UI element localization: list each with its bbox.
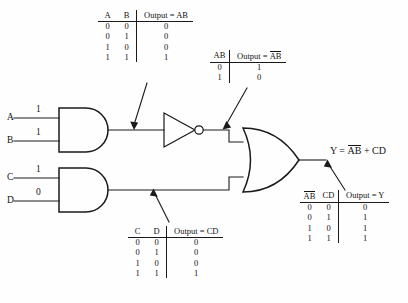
table-row: 0 1 0 (98, 32, 193, 42)
arrowhead-y (324, 160, 332, 168)
table-row: 1 0 0 (128, 258, 223, 268)
cell-b: 1 (117, 52, 137, 62)
wire-notab-to-or (204, 130, 244, 142)
th-ab-output: Output = AB (137, 10, 194, 21)
cell-out: 1 (137, 52, 194, 62)
and-gate-ab-body (59, 108, 108, 152)
table-row: 1 0 (210, 73, 286, 83)
cell-out: 0 (137, 42, 194, 52)
th-y-cd: CD (319, 190, 339, 202)
cell-out: 1 (339, 223, 390, 233)
table-row: 1 0 1 (300, 223, 389, 233)
input-value-c: 1 (36, 164, 41, 174)
th-notab-output-overline: AB (270, 51, 282, 61)
cell-out: 1 (167, 268, 224, 278)
cell-c: 0 (128, 237, 147, 248)
leader-y-table (329, 165, 345, 190)
th-ab-a: A (98, 10, 117, 21)
cell-a: 0 (98, 21, 117, 32)
table-row: 0 0 0 (300, 202, 389, 213)
table-row: 0 0 0 (98, 21, 193, 32)
input-value-b: 1 (36, 127, 41, 137)
table-row: 1 1 1 (300, 233, 389, 243)
table-row: 0 1 0 (128, 248, 223, 258)
arrowhead-notab (223, 121, 232, 129)
input-label-d: D (7, 195, 14, 205)
input-label-b: B (7, 135, 13, 145)
cell-b: 0 (117, 42, 137, 52)
cell-out: 1 (339, 213, 390, 223)
cell-a: 0 (98, 32, 117, 42)
table-row: 0 1 (210, 62, 286, 73)
input-label-c: C (7, 172, 13, 182)
th-y-notab: AB (300, 190, 319, 202)
table-row: 1 1 1 (98, 52, 193, 62)
table-row: 1 1 1 (128, 268, 223, 278)
input-label-a: A (7, 112, 14, 122)
cell-cd: 0 (319, 223, 339, 233)
cell-notab: 0 (300, 213, 319, 223)
output-equation: Y = AB + CD (330, 145, 386, 156)
th-cd-d: D (147, 226, 167, 237)
leader-cd-table (155, 194, 169, 222)
output-equation-term1: AB (348, 145, 362, 156)
cell-out: 1 (339, 233, 390, 243)
not-gate-body (164, 113, 195, 147)
cell-notab: 1 (300, 233, 319, 243)
th-notab-output-prefix: Output = (237, 51, 270, 61)
table-row: 0 0 0 (128, 237, 223, 248)
cell-d: 0 (147, 237, 167, 248)
cell-notab: 0 (300, 202, 319, 213)
cell-ab: 1 (210, 73, 230, 83)
cell-out: 0 (339, 202, 390, 213)
th-cd-output: Output = CD (167, 226, 224, 237)
cell-c: 1 (128, 258, 147, 268)
table-row: 0 1 1 (300, 213, 389, 223)
cell-b: 0 (117, 21, 137, 32)
cell-d: 1 (147, 248, 167, 258)
truth-table-not-ab: AB Output = AB 0 1 1 0 (210, 50, 286, 83)
cell-cd: 0 (319, 202, 339, 213)
and-gate-cd-body (59, 168, 108, 212)
table-row: 1 0 0 (98, 42, 193, 52)
cell-c: 0 (128, 248, 147, 258)
logic-circuit-diagram: A B C D 1 1 1 0 Y = AB + CD A B Output =… (0, 0, 408, 303)
th-ab-b: B (117, 10, 137, 21)
output-equation-prefix: Y = (330, 145, 348, 156)
cell-out: 1 (230, 62, 287, 73)
th-y-output: Output = Y (339, 190, 390, 202)
cell-b: 1 (117, 32, 137, 42)
output-equation-term2: CD (372, 145, 386, 156)
output-equation-plus: + (361, 145, 372, 156)
cell-out: 0 (230, 73, 287, 83)
cell-a: 1 (98, 42, 117, 52)
or-gate-body (243, 128, 299, 192)
cell-notab: 1 (300, 223, 319, 233)
th-notab-ab: AB (210, 50, 230, 62)
arrowhead-ab (130, 121, 138, 130)
cell-out: 0 (137, 21, 194, 32)
not-gate-bubble (195, 126, 203, 134)
cell-cd: 1 (319, 213, 339, 223)
input-value-a: 1 (36, 104, 41, 114)
cell-out: 0 (167, 248, 224, 258)
cell-out: 0 (167, 237, 224, 248)
wire-cd-to-or (108, 177, 243, 190)
th-y-notab-overline: AB (304, 191, 316, 201)
cell-cd: 1 (319, 233, 339, 243)
cell-d: 1 (147, 268, 167, 278)
truth-table-y: AB CD Output = Y 0 0 0 0 1 1 1 0 1 1 (300, 190, 389, 243)
th-notab-output: Output = AB (230, 50, 287, 62)
cell-ab: 0 (210, 62, 230, 73)
input-value-d: 0 (36, 187, 41, 197)
cell-c: 1 (128, 268, 147, 278)
cell-out: 0 (167, 258, 224, 268)
leader-ab-table (134, 83, 147, 125)
th-cd-c: C (128, 226, 147, 237)
cell-d: 0 (147, 258, 167, 268)
cell-out: 0 (137, 32, 194, 42)
leader-notab-table (226, 88, 247, 125)
cell-a: 1 (98, 52, 117, 62)
truth-table-cd: C D Output = CD 0 0 0 0 1 0 1 0 0 1 (128, 226, 223, 278)
truth-table-ab: A B Output = AB 0 0 0 0 1 0 1 0 0 1 (98, 10, 193, 62)
